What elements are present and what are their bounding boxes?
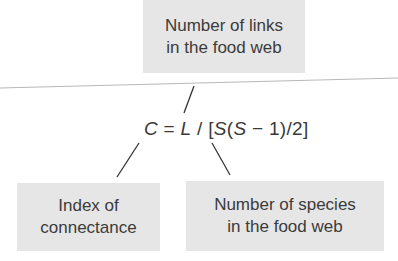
connector-S-to-species xyxy=(212,143,230,175)
index-of-connectance-box: Index of connectance xyxy=(17,183,160,251)
connector-links-to-L xyxy=(184,86,194,113)
formula-div: / [ xyxy=(191,118,213,139)
left-box-line1: Index of xyxy=(58,195,119,217)
formula-C: C xyxy=(144,118,158,139)
formula-S1: S xyxy=(214,118,227,139)
top-box-line2: in the food web xyxy=(166,37,281,59)
formula-S2: S xyxy=(233,118,246,139)
right-box-line1: Number of species xyxy=(214,194,356,216)
number-of-links-box: Number of links in the food web xyxy=(143,0,305,73)
right-box-line2: in the food web xyxy=(227,216,342,238)
formula-eq: = xyxy=(158,118,181,139)
left-box-line2: connectance xyxy=(40,217,136,239)
connector-C-to-index xyxy=(117,143,139,177)
top-box-line1: Number of links xyxy=(165,15,283,37)
divider-line xyxy=(0,78,398,88)
formula-tail: − 1)/2] xyxy=(246,118,308,139)
connectance-formula: C = L / [S(S − 1)/2] xyxy=(144,118,308,140)
formula-L: L xyxy=(181,118,192,139)
number-of-species-box: Number of species in the food web xyxy=(186,181,384,251)
